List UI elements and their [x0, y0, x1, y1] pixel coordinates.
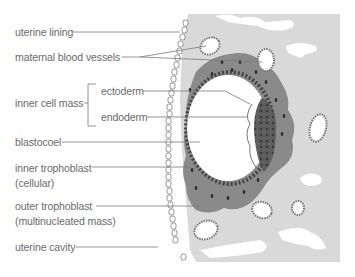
blastocyst-implantation-diagram: uterine lining maternal blood vessels in… — [0, 0, 355, 277]
label-inner-trophoblast-sub: (cellular) — [15, 177, 54, 189]
label-blastocoel: blastocoel — [15, 136, 61, 148]
label-uterine-cavity: uterine cavity — [15, 241, 75, 253]
label-inner-cell-mass: inner cell mass — [15, 97, 84, 109]
label-endoderm: endoderm — [101, 111, 147, 123]
label-outer-trophoblast: outer trophoblast — [15, 200, 92, 212]
label-maternal-blood-vessels: maternal blood vessels — [15, 51, 120, 63]
label-inner-trophoblast: inner trophoblast — [15, 162, 92, 174]
label-ectoderm: ectoderm — [101, 85, 144, 97]
label-outer-trophoblast-sub: (multinucleated mass) — [15, 215, 116, 227]
label-uterine-lining: uterine lining — [15, 26, 73, 38]
